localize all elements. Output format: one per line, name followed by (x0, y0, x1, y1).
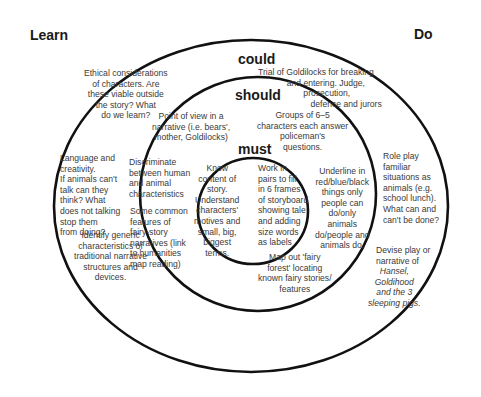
could-language-text: Language and creativity. If animals can'… (60, 153, 120, 238)
should-discriminate-text: Discriminate between human and animal ch… (129, 157, 190, 199)
should-features-text: Some common features of fairy-story narr… (130, 206, 188, 270)
should-point-of-view-text: Point of view in a narrative (i.e. bears… (152, 111, 230, 143)
should-map-out-text: Map out 'fairy forest' locating known fa… (258, 252, 332, 294)
must-know-text: Know content of story. Understand charac… (194, 163, 240, 258)
should-groups-text: Groups of 6–5 characters each answer pol… (257, 110, 348, 152)
learn-heading: Learn (30, 27, 68, 43)
could-devise-text: Devise play or narrative of (376, 245, 430, 266)
could-trial-text: Trial of Goldilocks for breaking and ent… (258, 67, 382, 109)
could-heading: could (238, 51, 275, 67)
could-devise-titles-text: Hansel, Goldihood and the 3 sleeping pig… (368, 266, 421, 308)
do-heading: Do (414, 26, 433, 42)
should-underline-text: Underline in red/blue/black things only … (315, 166, 369, 251)
could-role-play-text: Role play familiar situations as animals… (383, 151, 439, 225)
must-work-text: Work in pairs to fill in 6 frames of sto… (258, 163, 308, 248)
